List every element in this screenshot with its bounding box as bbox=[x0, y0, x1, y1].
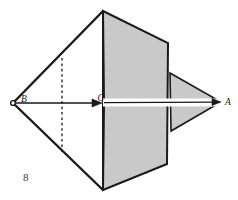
vertex-label-A: A bbox=[224, 97, 231, 107]
figure-canvas: B C A 8 bbox=[0, 0, 238, 200]
figure-number: 8 bbox=[23, 171, 29, 183]
vertex-marker-B bbox=[11, 101, 16, 106]
vertex-label-B: B bbox=[21, 94, 27, 104]
vertex-label-C: C bbox=[98, 93, 105, 103]
geometry-diagram: B C A 8 bbox=[0, 0, 238, 200]
